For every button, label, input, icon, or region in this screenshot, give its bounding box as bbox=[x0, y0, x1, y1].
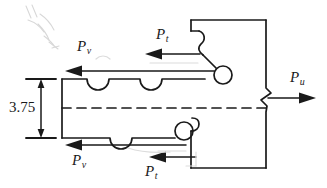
plate-right-edge-with-break bbox=[261, 20, 271, 168]
force-label-pt-bottom: Pt bbox=[145, 163, 157, 181]
dimension-label: 3.75 bbox=[9, 100, 35, 115]
force-subscript: t bbox=[154, 170, 157, 181]
force-symbol: P bbox=[72, 152, 81, 168]
figure-canvas: 3.75 Pv Pt Pu Pv Pt bbox=[0, 0, 327, 188]
upper-cope-fillet bbox=[199, 31, 204, 55]
force-subscript: v bbox=[86, 45, 91, 56]
force-subscript: v bbox=[81, 159, 86, 170]
pt-bottom-arrowhead bbox=[149, 152, 166, 163]
pv-bottom-arrowhead bbox=[65, 140, 82, 151]
force-label-pt-top: Pt bbox=[156, 26, 168, 44]
pv-top-arrowhead bbox=[65, 66, 82, 77]
force-label-pu-right: Pu bbox=[290, 69, 305, 87]
dimension-arrowhead-top bbox=[38, 79, 45, 88]
force-label-pv-bottom: Pv bbox=[72, 152, 86, 170]
force-subscript: t bbox=[165, 33, 168, 44]
pu-arrowhead bbox=[299, 93, 316, 104]
beam-top-edge-with-notches bbox=[62, 79, 205, 90]
bolt-circle-upper bbox=[214, 66, 232, 84]
scan-ghost-lines bbox=[96, 56, 198, 166]
force-symbol: P bbox=[156, 26, 165, 42]
force-symbol: P bbox=[145, 163, 154, 179]
pt-top-arrowhead bbox=[145, 49, 162, 60]
diagonal-weld-line bbox=[203, 55, 216, 68]
force-symbol: P bbox=[77, 38, 86, 54]
force-symbol: P bbox=[290, 69, 299, 85]
force-label-pv-top: Pv bbox=[77, 38, 91, 56]
dimension-arrowhead-bottom bbox=[38, 129, 45, 138]
force-subscript: u bbox=[299, 76, 305, 87]
